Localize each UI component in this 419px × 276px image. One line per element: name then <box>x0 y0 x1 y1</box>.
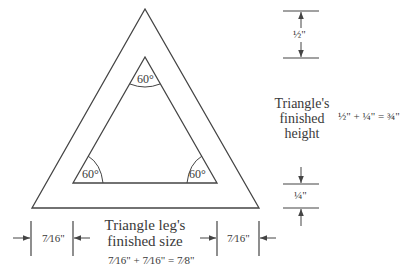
leg-left-dimension-label: 7⁄16" <box>42 232 65 244</box>
height-bottom-dimension-label: ¼" <box>294 189 307 201</box>
angle-label-top: 60° <box>137 72 154 87</box>
leg-label-line2: finished size <box>95 233 195 249</box>
angle-label-bottom-right: 60° <box>189 167 206 182</box>
angle-label-bottom-left: 60° <box>82 167 99 182</box>
height-top-dimension-label: ½" <box>293 28 306 40</box>
height-formula: ½" + ¼" = ¾" <box>338 110 400 122</box>
leg-formula: 7⁄16" + 7⁄16" = 7⁄8" <box>108 254 194 266</box>
height-label-line3: height <box>270 126 334 141</box>
height-label-line2: finished <box>270 111 334 126</box>
leg-right-dimension-label: 7⁄16" <box>227 232 250 244</box>
outer-triangle <box>32 9 259 208</box>
height-label-line1: Triangle's <box>270 96 334 111</box>
leg-label: Triangle leg's finished size <box>95 217 195 249</box>
leg-label-line1: Triangle leg's <box>95 217 195 233</box>
height-label: Triangle's finished height <box>270 96 334 141</box>
